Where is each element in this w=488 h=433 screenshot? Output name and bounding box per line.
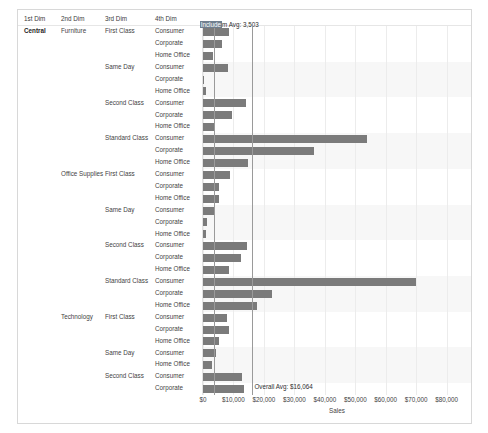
dim-label-d4[interactable]: Home Office [155, 122, 203, 130]
row-band [203, 74, 471, 86]
bar[interactable] [203, 326, 229, 334]
bar[interactable] [203, 278, 416, 286]
reference-line-dim-avg[interactable] [214, 26, 215, 395]
dim-label-d3[interactable]: First Class [105, 170, 151, 178]
dim-label-d3[interactable]: First Class [105, 27, 151, 35]
dim-label-d4[interactable]: Home Office [155, 87, 203, 95]
bar[interactable] [203, 111, 232, 119]
dim-label-d4[interactable]: Consumer [155, 277, 203, 285]
dim-label-d4[interactable]: Home Office [155, 337, 203, 345]
dim-label-d4[interactable]: Home Office [155, 158, 203, 166]
dim-label-d4[interactable]: Consumer [155, 313, 203, 321]
x-axis-title: Sales [203, 407, 471, 414]
dim-label-d4[interactable]: Corporate [155, 253, 203, 261]
dim-label-d4[interactable]: Consumer [155, 134, 203, 142]
bar[interactable] [203, 373, 242, 381]
row-band [203, 371, 471, 383]
dim-label-d4[interactable]: Consumer [155, 241, 203, 249]
bar[interactable] [203, 230, 206, 238]
bar[interactable] [203, 40, 222, 48]
gridline [416, 26, 417, 395]
dim-label-d4[interactable]: Corporate [155, 182, 203, 190]
bar[interactable] [203, 361, 212, 369]
dim-label-d4[interactable]: Corporate [155, 75, 203, 83]
dim-label-d4[interactable]: Consumer [155, 27, 203, 35]
bar[interactable] [203, 87, 206, 95]
axis-tick: $30,000 [283, 396, 306, 403]
dim-label-d4[interactable]: Home Office [155, 194, 203, 202]
reference-line-badge[interactable]: Include [200, 21, 222, 28]
gridline [264, 26, 265, 395]
gridline [447, 26, 448, 395]
dim-label-d4[interactable]: Consumer [155, 170, 203, 178]
dim-label-d2[interactable]: Office Supplies [61, 170, 105, 178]
row-band [203, 228, 471, 240]
bar[interactable] [203, 218, 207, 226]
dim-label-d3[interactable]: Same Day [105, 349, 151, 357]
dim-label-d3[interactable]: Second Class [105, 241, 151, 249]
row-band [203, 109, 471, 121]
row-band [203, 335, 471, 347]
axis-tick: $10,000 [222, 396, 245, 403]
dim-label-d4[interactable]: Home Office [155, 301, 203, 309]
viz-container: 1st Dim 2nd Dim 3rd Dim 4th Dim CentralF… [0, 0, 488, 433]
bar[interactable] [203, 385, 244, 393]
dim-label-d4[interactable]: Consumer [155, 99, 203, 107]
dim-label-d3[interactable]: Second Class [105, 99, 151, 107]
row-band [203, 347, 471, 359]
reference-line-overall-avg[interactable] [252, 26, 253, 395]
dim-label-d4[interactable]: Consumer [155, 349, 203, 357]
dim-label-d4[interactable]: Corporate [155, 289, 203, 297]
gridline [325, 26, 326, 395]
bar[interactable] [203, 207, 214, 215]
dim-label-d4[interactable]: Corporate [155, 325, 203, 333]
dim-label-d4[interactable]: Consumer [155, 372, 203, 380]
dim-label-d2[interactable]: Technology [61, 313, 105, 321]
bar[interactable] [203, 135, 367, 143]
bar[interactable] [203, 99, 246, 107]
dim-label-d3[interactable]: Standard Class [105, 134, 151, 142]
bar[interactable] [203, 64, 228, 72]
reference-line-label-overall-avg: Overall Avg: $16,064 [254, 383, 312, 390]
dim-label-d4[interactable]: Consumer [155, 206, 203, 214]
bar[interactable] [203, 314, 227, 322]
dim-label-d4[interactable]: Corporate [155, 384, 203, 392]
header-2nd-dim: 2nd Dim [61, 15, 106, 25]
bar[interactable] [203, 195, 219, 203]
dim-label-d3[interactable]: Second Class [105, 372, 151, 380]
dim-label-d4[interactable]: Corporate [155, 111, 203, 119]
bar[interactable] [203, 147, 314, 155]
bar[interactable] [203, 266, 229, 274]
bar[interactable] [203, 76, 204, 84]
dim-label-d2[interactable]: Furniture [61, 27, 105, 35]
bar[interactable] [203, 337, 219, 345]
bar[interactable] [203, 242, 247, 250]
bar[interactable] [203, 254, 241, 262]
dim-label-d3[interactable]: Standard Class [105, 277, 151, 285]
bar[interactable] [203, 302, 257, 310]
dim-label-d3[interactable]: Same Day [105, 63, 151, 71]
dim-label-d3[interactable]: First Class [105, 313, 151, 321]
row-band [203, 312, 471, 324]
dim-label-d4[interactable]: Corporate [155, 39, 203, 47]
header-3rd-dim: 3rd Dim [105, 15, 150, 25]
dim-label-d1[interactable]: Central [24, 27, 60, 35]
row-band [203, 264, 471, 276]
row-band [203, 324, 471, 336]
dim-label-d4[interactable]: Consumer [155, 63, 203, 71]
header-4th-dim: 4th Dim [155, 15, 203, 25]
bar[interactable] [203, 171, 230, 179]
plot-area: Dim Avg: 3,503IncludeOverall Avg: $16,06… [203, 26, 471, 395]
dim-label-d4[interactable]: Corporate [155, 218, 203, 226]
row-band [203, 181, 471, 193]
dim-label-d4[interactable]: Home Office [155, 265, 203, 273]
dim-label-d4[interactable]: Home Office [155, 230, 203, 238]
dim-label-d4[interactable]: Home Office [155, 51, 203, 59]
dim-label-d3[interactable]: Same Day [105, 206, 151, 214]
bar[interactable] [203, 159, 248, 167]
bar[interactable] [203, 183, 219, 191]
dim-label-d4[interactable]: Home Office [155, 360, 203, 368]
bar[interactable] [203, 52, 213, 60]
dim-label-d4[interactable]: Corporate [155, 146, 203, 154]
bar[interactable] [203, 28, 229, 36]
